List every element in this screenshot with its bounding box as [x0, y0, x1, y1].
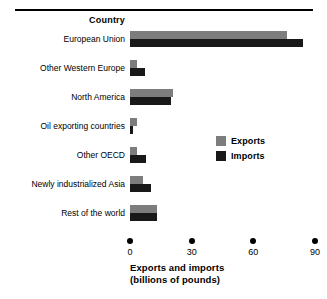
bar-exports: [130, 205, 157, 213]
x-axis-title-line2: (billions of pounds): [130, 274, 320, 286]
bar-imports: [130, 68, 145, 76]
plot-area: [130, 30, 315, 235]
x-tick-marker: [189, 238, 195, 244]
legend-label: Exports: [231, 136, 265, 146]
bar-imports: [130, 213, 157, 221]
chart-figure: Country European UnionOther Western Euro…: [0, 0, 327, 299]
x-axis-title-line1: Exports and imports: [130, 262, 320, 274]
category-label: Other Western Europe: [0, 63, 125, 73]
category-label: Oil exporting countries: [0, 121, 125, 131]
country-column-header: Country: [0, 15, 125, 25]
category-label: European Union: [0, 34, 125, 44]
category-label: North America: [0, 92, 125, 102]
legend-swatch-exports: [216, 136, 226, 146]
bar-exports: [130, 176, 143, 184]
x-axis-title: Exports and imports (billions of pounds): [130, 262, 320, 286]
x-tick-label: 90: [302, 247, 327, 257]
category-label: Newly industrialized Asia: [0, 179, 125, 189]
bar-exports: [130, 89, 173, 97]
legend-item: Exports: [216, 134, 306, 147]
bar-exports: [130, 118, 137, 126]
bar-imports: [130, 155, 146, 163]
bar-exports: [130, 147, 137, 155]
x-axis: 0306090: [130, 238, 315, 260]
x-tick-marker: [127, 238, 133, 244]
x-tick-label: 60: [240, 247, 266, 257]
x-tick-label: 30: [179, 247, 205, 257]
x-tick-marker: [250, 238, 256, 244]
x-tick-label: 0: [117, 247, 143, 257]
bar-imports: [130, 126, 133, 134]
top-divider-rule: [15, 9, 313, 11]
bar-imports: [130, 184, 151, 192]
bar-exports: [130, 60, 137, 68]
legend-swatch-imports: [216, 151, 226, 161]
x-tick-marker: [312, 238, 318, 244]
bar-imports: [130, 97, 171, 105]
category-label: Other OECD: [0, 150, 125, 160]
bar-imports: [130, 39, 303, 47]
bar-exports: [130, 31, 287, 39]
legend-label: Imports: [231, 151, 265, 161]
legend-item: Imports: [216, 149, 306, 162]
chart-legend: ExportsImports: [216, 134, 306, 164]
category-label: Rest of the world: [0, 208, 125, 218]
